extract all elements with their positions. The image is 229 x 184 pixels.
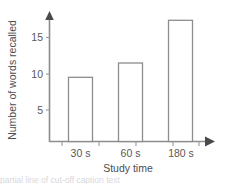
- bar-30s[interactable]: [69, 77, 93, 141]
- chart-canvas: 5 10 15 30 s 60 s 180 s Number of words …: [0, 0, 229, 184]
- x-axis-title: Study time: [103, 162, 153, 174]
- x-tick-label-60s: 60 s: [121, 147, 141, 159]
- bar-chart-figure: 5 10 15 30 s 60 s 180 s Number of words …: [0, 0, 229, 184]
- x-axis-arrow-icon: [205, 137, 215, 147]
- bar-180s[interactable]: [169, 20, 193, 141]
- y-tick-label-15: 15: [31, 31, 43, 43]
- y-tick-label-10: 10: [31, 68, 43, 80]
- y-tick-label-5: 5: [37, 104, 43, 116]
- x-tick-label-180s: 180 s: [168, 147, 194, 159]
- y-axis-title: Number of words recalled: [6, 20, 18, 140]
- y-axis-arrow-icon: [45, 11, 54, 20]
- bar-60s[interactable]: [119, 63, 143, 142]
- cropped-caption-text: partial line of cut-off caption text: [0, 176, 229, 184]
- x-tick-label-30s: 30 s: [71, 147, 91, 159]
